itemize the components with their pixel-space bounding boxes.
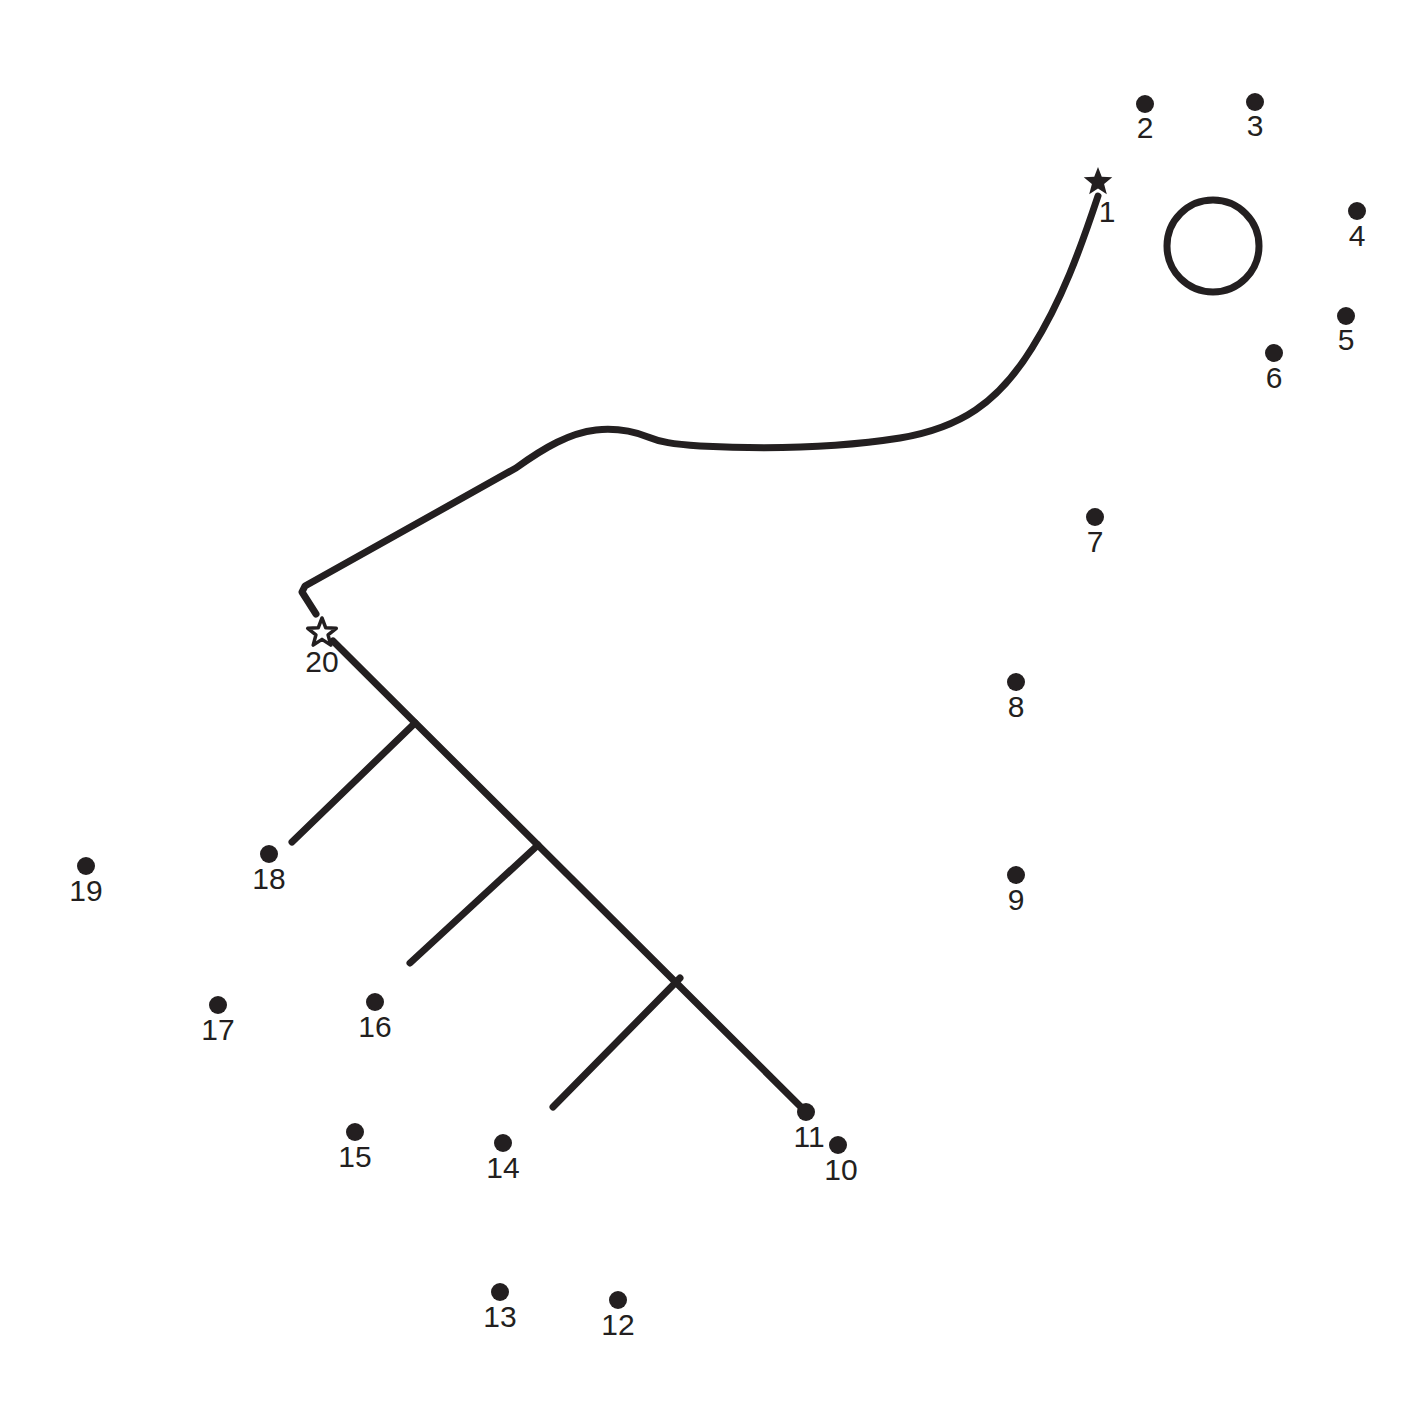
puzzle-dot-17[interactable]: [209, 996, 227, 1014]
main-curve: [302, 196, 1098, 614]
dot-label-18: 18: [252, 862, 285, 895]
puzzle-canvas: 1234567891011121314151617181920: [0, 0, 1407, 1422]
puzzle-dot-15[interactable]: [346, 1123, 364, 1141]
dot-labels-group: 1234567891011121314151617181920: [69, 109, 1365, 1341]
puzzle-dot-7[interactable]: [1086, 508, 1104, 526]
puzzle-dot-18[interactable]: [260, 845, 278, 863]
dot-label-15: 15: [338, 1140, 371, 1173]
puzzle-dot-12[interactable]: [609, 1291, 627, 1309]
puzzle-dot-8[interactable]: [1007, 673, 1025, 691]
connect-the-dots-drawing: 1234567891011121314151617181920: [0, 0, 1407, 1422]
dot-label-3: 3: [1247, 109, 1264, 142]
dot-label-2: 2: [1137, 111, 1154, 144]
stroke-paths-group: [292, 196, 1098, 1112]
dot-label-5: 5: [1338, 323, 1355, 356]
dot-label-14: 14: [486, 1151, 519, 1184]
puzzle-dot-9[interactable]: [1007, 866, 1025, 884]
puzzle-dot-4[interactable]: [1348, 202, 1366, 220]
dot-label-16: 16: [358, 1010, 391, 1043]
dot-label-10: 10: [824, 1153, 857, 1186]
puzzle-dot-10[interactable]: [829, 1136, 847, 1154]
puzzle-dot-19[interactable]: [77, 857, 95, 875]
branch-lower: [553, 978, 680, 1107]
puzzle-dot-16[interactable]: [366, 993, 384, 1011]
dot-label-7: 7: [1087, 525, 1104, 558]
dot-label-20: 20: [305, 645, 338, 678]
open-circle-shape: [1167, 200, 1259, 292]
branch-upper: [292, 723, 415, 842]
dot-label-13: 13: [483, 1300, 516, 1333]
dot-label-11: 11: [793, 1120, 824, 1153]
extra-shapes-group: [1167, 200, 1259, 292]
dot-label-9: 9: [1008, 883, 1025, 916]
puzzle-dot-11[interactable]: [797, 1103, 815, 1121]
dot-label-12: 12: [601, 1308, 634, 1341]
dot-label-4: 4: [1349, 219, 1366, 252]
puzzle-dot-13[interactable]: [491, 1283, 509, 1301]
dot-label-8: 8: [1008, 690, 1025, 723]
dots-group: [77, 93, 1366, 1309]
puzzle-dot-6[interactable]: [1265, 344, 1283, 362]
dot-label-17: 17: [201, 1013, 234, 1046]
dot-label-19: 19: [69, 874, 102, 907]
branch-trunk: [333, 641, 806, 1112]
dot-label-1: 1: [1099, 195, 1116, 228]
dot-label-6: 6: [1266, 361, 1283, 394]
branch-middle: [410, 845, 538, 963]
puzzle-dot-14[interactable]: [494, 1134, 512, 1152]
puzzle-dot-1[interactable]: [1084, 167, 1113, 194]
